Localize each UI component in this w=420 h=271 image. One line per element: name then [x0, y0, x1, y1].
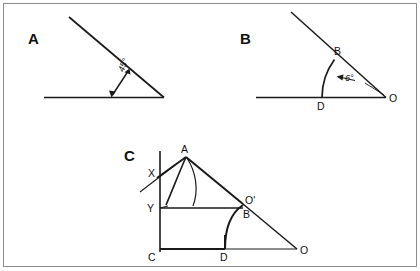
panel-c-label-o: O: [300, 245, 308, 256]
panel-c-label-oprime: O': [245, 195, 255, 206]
panel-b-label-b: B: [334, 46, 341, 57]
panel-b-letter: B: [240, 31, 251, 46]
panel-b-vertex-leader: [365, 83, 384, 95]
panel-c-arc-d-to-b: [225, 205, 243, 249]
panel-a-angle-arrow-shaft: [113, 71, 129, 96]
panel-b-leader-arrowhead: [337, 75, 344, 81]
panel-b-angle-label: 6°: [345, 74, 354, 83]
panel-a-angle-arrowhead-lower: [109, 91, 116, 98]
panel-c-label-d: D: [220, 252, 228, 263]
panel-b-angle-arc: [322, 60, 335, 98]
panel-a-letter: A: [28, 31, 39, 46]
panel-c-edge-a-to-oprime: [186, 157, 243, 204]
panel-c-ray-oprime-to-o: [243, 204, 297, 249]
panel-c-label-a: A: [181, 144, 188, 155]
figure-linework: [0, 0, 420, 271]
panel-c-label-x: X: [148, 168, 155, 179]
panel-b-label-d: D: [317, 101, 325, 112]
figure-root: A 45° B B D O 6° C A X Y O' B C D O: [0, 0, 420, 271]
panel-b-geometry: [256, 12, 386, 98]
panel-a-geometry: [44, 17, 164, 98]
panel-c-label-y: Y: [147, 203, 154, 214]
panel-c-letter: C: [124, 148, 135, 163]
panel-c-geometry: [140, 151, 297, 252]
panel-c-label-c: C: [148, 252, 156, 263]
panel-c-label-b: B: [243, 209, 250, 220]
panel-a-oblique-ray: [69, 17, 164, 98]
panel-b-label-o: O: [389, 93, 397, 104]
